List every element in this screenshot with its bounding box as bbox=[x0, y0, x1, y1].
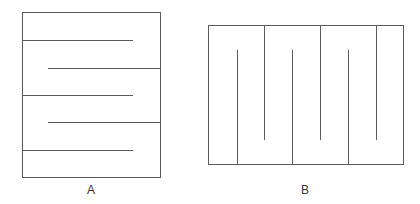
figure-b-label: B bbox=[301, 183, 309, 197]
figure-b bbox=[209, 25, 404, 165]
baffle-diagram: A B bbox=[0, 0, 420, 204]
figure-a bbox=[22, 13, 161, 178]
figure-a-label: A bbox=[87, 183, 95, 197]
